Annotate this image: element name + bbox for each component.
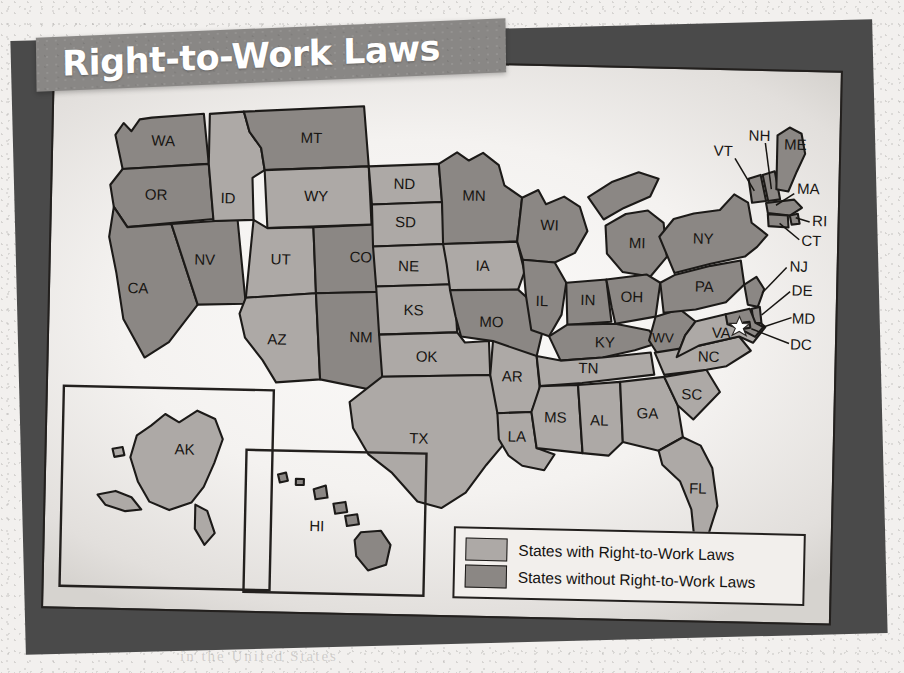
- state-label-GA: GA: [636, 404, 658, 421]
- state-label-NH: NH: [749, 127, 771, 144]
- state-label-OR: OR: [145, 185, 168, 202]
- legend-label-with-rtw: States with Right-to-Work Laws: [518, 541, 734, 564]
- state-label-AZ: AZ: [267, 330, 287, 347]
- leader-line-MD: [763, 317, 791, 328]
- state-label-HI: HI: [309, 517, 324, 534]
- state-label-IL: IL: [535, 292, 548, 309]
- state-label-NM: NM: [349, 328, 373, 346]
- state-label-MS: MS: [544, 408, 567, 425]
- state-label-FL: FL: [689, 479, 707, 496]
- map-page-sheet: WA OR CA NV ID MT WY UT AZ CO NM ND SD N…: [41, 53, 843, 625]
- state-label-NE: NE: [398, 257, 419, 274]
- state-label-VA: VA: [712, 324, 731, 341]
- state-shape-MI[interactable]: [586, 171, 668, 277]
- state-label-MA: MA: [797, 180, 820, 197]
- legend-swatch-without-rtw: [465, 565, 507, 589]
- state-label-NY: NY: [693, 229, 714, 246]
- state-label-SD: SD: [395, 213, 416, 230]
- state-label-WI: WI: [540, 216, 559, 233]
- state-label-WA: WA: [151, 132, 175, 150]
- page-title: Right-to-Work Laws: [36, 28, 440, 85]
- state-shape-CT[interactable]: [768, 214, 789, 227]
- state-shape-AK[interactable]: [96, 409, 223, 546]
- legend-row-without: States without Right-to-Work Laws: [465, 565, 795, 595]
- state-label-AL: AL: [590, 411, 609, 428]
- legend-label-without-rtw: States without Right-to-Work Laws: [518, 568, 756, 591]
- state-label-ME: ME: [784, 135, 807, 152]
- state-label-KY: KY: [595, 333, 615, 350]
- state-label-CO: CO: [349, 248, 372, 265]
- leader-line-VT: [734, 158, 755, 190]
- state-label-VT: VT: [713, 142, 733, 159]
- state-label-ID: ID: [220, 189, 236, 206]
- state-shape-HI[interactable]: [276, 472, 392, 570]
- state-label-ND: ND: [393, 175, 415, 192]
- state-shape-NJ[interactable]: [744, 277, 765, 307]
- state-label-LA: LA: [508, 427, 527, 444]
- state-label-WV: WV: [652, 330, 674, 345]
- state-label-MI: MI: [629, 234, 646, 251]
- map-legend: States with Right-to-Work Laws States wi…: [452, 526, 805, 606]
- state-shape-FL[interactable]: [657, 437, 719, 542]
- state-label-MO: MO: [479, 313, 504, 331]
- screenshot-root: the fundamental right of in the United S…: [0, 0, 904, 673]
- state-label-CA: CA: [127, 279, 148, 296]
- state-label-SC: SC: [681, 385, 702, 402]
- state-label-MT: MT: [300, 129, 322, 146]
- state-label-PA: PA: [695, 277, 714, 294]
- state-shape-TX[interactable]: [347, 372, 510, 509]
- legend-row-with: States with Right-to-Work Laws: [465, 538, 795, 568]
- state-label-OK: OK: [416, 347, 438, 364]
- state-label-IN: IN: [580, 291, 595, 308]
- state-label-AK: AK: [174, 440, 194, 457]
- state-label-MD: MD: [792, 310, 816, 328]
- leader-line-DE: [762, 291, 791, 316]
- state-label-OH: OH: [621, 288, 644, 305]
- state-label-CT: CT: [801, 232, 821, 249]
- legend-swatch-with-rtw: [465, 538, 507, 562]
- state-label-WY: WY: [304, 187, 329, 205]
- state-label-NC: NC: [698, 348, 720, 365]
- state-label-UT: UT: [271, 250, 291, 267]
- state-label-KS: KS: [403, 301, 423, 318]
- state-label-TX: TX: [409, 429, 429, 446]
- state-label-AR: AR: [502, 367, 523, 384]
- leader-line-NJ: [762, 267, 787, 294]
- state-label-RI: RI: [812, 212, 827, 229]
- state-label-IA: IA: [475, 257, 490, 274]
- ghost-text-line-2: in the United States: [180, 648, 338, 665]
- state-label-NV: NV: [194, 251, 215, 268]
- state-label-NJ: NJ: [789, 258, 808, 275]
- state-label-TN: TN: [578, 359, 598, 376]
- state-label-DC: DC: [790, 336, 812, 353]
- state-label-DE: DE: [792, 282, 813, 299]
- state-label-MN: MN: [462, 186, 486, 204]
